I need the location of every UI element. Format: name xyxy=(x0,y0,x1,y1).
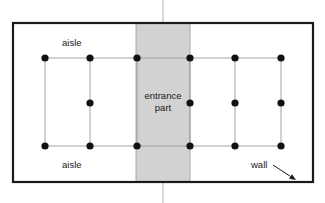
entrance-part-label-line1: entrance xyxy=(145,90,182,101)
diagram-canvas: aisle aisle entrance part wall xyxy=(0,0,325,203)
storage-node-dot xyxy=(41,54,48,61)
storage-node-dot xyxy=(231,99,238,106)
storage-node-dot xyxy=(86,99,93,106)
storage-node-dot xyxy=(277,99,284,106)
storage-node-dot xyxy=(186,54,193,61)
storage-node-dot xyxy=(86,142,93,149)
storage-node-dot xyxy=(277,142,284,149)
aisle-label-top: aisle xyxy=(62,37,82,48)
floor-plan-diagram: aisle aisle entrance part wall xyxy=(0,0,325,203)
storage-node-dot xyxy=(186,142,193,149)
storage-node-dot xyxy=(133,54,140,61)
storage-node-dot xyxy=(133,142,140,149)
storage-node-dot xyxy=(186,99,193,106)
aisle-label-bottom: aisle xyxy=(62,159,82,170)
storage-node-dot xyxy=(277,54,284,61)
storage-node-dot xyxy=(86,54,93,61)
wall-label: wall xyxy=(250,159,267,170)
storage-node-dot xyxy=(231,54,238,61)
entrance-part-label-line2: part xyxy=(155,102,172,113)
storage-node-dot xyxy=(41,142,48,149)
storage-node-dot xyxy=(231,142,238,149)
